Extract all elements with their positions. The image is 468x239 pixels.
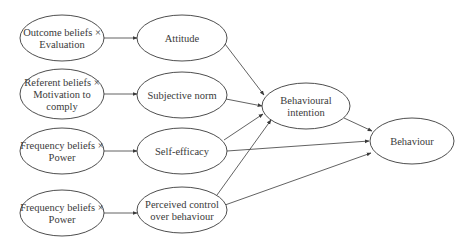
node-label: Outcome beliefs × — [23, 27, 101, 38]
arrow-self-efficacy-to-behaviour — [227, 141, 369, 151]
node-referent-beliefs: Referent beliefs ×Motivation tocomply — [20, 69, 104, 119]
arrow-line — [226, 99, 262, 106]
node-label: Power — [49, 152, 76, 163]
node-frequency-beliefs-2: Frequency beliefs ×Power — [20, 190, 104, 236]
node-label: Power — [49, 214, 76, 225]
arrow-perceived-control-to-behaviour — [225, 153, 371, 205]
node-frequency-beliefs-1: Frequency beliefs ×Power — [20, 128, 104, 174]
edges-layer — [104, 38, 372, 213]
diagram-canvas: Outcome beliefs ×EvaluationReferent beli… — [0, 0, 468, 239]
node-label: Perceived control — [145, 199, 219, 210]
node-attitude: Attitude — [137, 15, 227, 61]
node-label: Behaviour — [390, 136, 434, 147]
node-label: over behaviour — [150, 211, 214, 222]
arrow-behavioural-intention-to-behaviour — [344, 118, 372, 131]
node-behavioural-intention: Behaviouralintention — [262, 83, 350, 129]
node-behaviour: Behaviour — [370, 118, 454, 164]
node-label: Self-efficacy — [155, 146, 210, 157]
arrow-subjective-norm-to-behavioural-intention — [226, 99, 262, 106]
node-label: Frequency beliefs × — [20, 140, 104, 151]
node-perceived-control: Perceived controlover behaviour — [137, 187, 227, 233]
arrow-self-efficacy-to-behavioural-intention — [224, 114, 263, 140]
node-label: Subjective norm — [147, 90, 216, 101]
node-label: Evaluation — [39, 39, 85, 50]
arrow-line — [225, 153, 371, 205]
node-subjective-norm: Subjective norm — [137, 72, 227, 118]
arrow-line — [225, 44, 264, 95]
node-outcome-beliefs: Outcome beliefs ×Evaluation — [20, 15, 104, 61]
arrow-line — [344, 118, 372, 131]
node-label: Frequency beliefs × — [20, 202, 104, 213]
node-label: Attitude — [165, 33, 200, 44]
node-label: intention — [287, 107, 325, 118]
node-label: Behavioural — [280, 95, 331, 106]
node-label: comply — [46, 101, 78, 112]
arrow-line — [224, 114, 263, 140]
arrow-attitude-to-behavioural-intention — [225, 44, 264, 95]
arrow-line — [227, 141, 369, 151]
node-label: Referent beliefs × — [24, 77, 99, 88]
node-self-efficacy: Self-efficacy — [137, 128, 227, 174]
theory-of-planned-behaviour-diagram: Outcome beliefs ×EvaluationReferent beli… — [0, 0, 468, 239]
nodes-layer: Outcome beliefs ×EvaluationReferent beli… — [20, 15, 454, 236]
node-label: Motivation to — [33, 89, 90, 100]
